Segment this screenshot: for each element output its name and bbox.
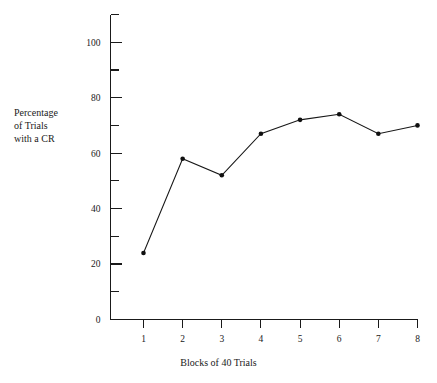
- data-point-marker: [141, 251, 146, 256]
- x-tick-label: 1: [141, 334, 146, 344]
- data-point-marker: [415, 123, 420, 128]
- data-point-marker: [376, 131, 381, 136]
- data-series: [141, 112, 420, 255]
- y-axis-ticks: [111, 15, 122, 320]
- chart-axes: [111, 15, 418, 320]
- x-tick-label: 5: [298, 334, 303, 344]
- series-line-path: [144, 114, 418, 253]
- data-point-marker: [180, 156, 185, 161]
- x-tick-label: 4: [259, 334, 264, 344]
- line-chart-plot: 020406080100 12345678: [0, 0, 437, 383]
- chart-figure: 020406080100 12345678 Percentageof Trial…: [0, 0, 437, 383]
- x-tick-label: 2: [180, 334, 185, 344]
- x-tick-label: 7: [376, 334, 381, 344]
- y-axis-title: Percentageof Trialswith a CR: [14, 106, 58, 145]
- y-axis-title-line: of Trials: [14, 119, 58, 132]
- series-markers: [141, 112, 420, 255]
- y-axis-title-line: Percentage: [14, 106, 58, 119]
- y-axis-tick-labels: 020406080100: [86, 38, 101, 325]
- data-point-marker: [219, 173, 224, 178]
- data-point-marker: [337, 112, 342, 117]
- x-axis-title: Blocks of 40 Trials: [0, 356, 437, 369]
- x-tick-label: 3: [219, 334, 224, 344]
- y-tick-label: 20: [91, 259, 101, 269]
- data-point-marker: [298, 118, 303, 123]
- x-axis-ticks: [144, 320, 418, 328]
- x-tick-label: 6: [337, 334, 342, 344]
- y-tick-label: 40: [91, 204, 101, 214]
- y-tick-label: 100: [86, 38, 101, 48]
- y-axis-title-line: with a CR: [14, 132, 58, 145]
- y-tick-label: 0: [96, 315, 101, 325]
- x-tick-label: 8: [415, 334, 420, 344]
- data-point-marker: [259, 131, 264, 136]
- y-tick-label: 60: [91, 149, 101, 159]
- x-axis-tick-labels: 12345678: [141, 334, 420, 344]
- y-tick-label: 80: [91, 93, 101, 103]
